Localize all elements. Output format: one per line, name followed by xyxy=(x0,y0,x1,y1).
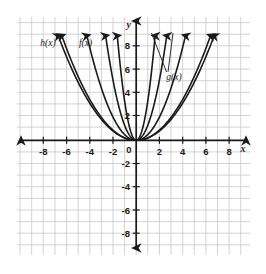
x-tick-label: -8 xyxy=(39,146,47,157)
y-axis-label: y xyxy=(126,19,132,30)
curve-label-g: g(x) xyxy=(166,72,181,83)
y-tick-label: -4 xyxy=(122,181,131,192)
x-tick-label: 6 xyxy=(203,146,208,157)
origin-label: 0 xyxy=(126,144,131,155)
coordinate-plane-svg: -8 -6 -4 -2 2 4 6 8 8 6 4 2 -2 -4 -6 -8 … xyxy=(0,0,266,274)
x-tick-label: -6 xyxy=(62,146,70,157)
y-tick-label: -6 xyxy=(122,205,130,216)
x-tick-label: 2 xyxy=(157,146,162,157)
parabola-graph-figure: -8 -6 -4 -2 2 4 6 8 8 6 4 2 -2 -4 -6 -8 … xyxy=(0,0,266,274)
x-tick-label: -4 xyxy=(86,146,95,157)
x-axis-label: x xyxy=(240,143,246,154)
x-tick-label: 8 xyxy=(226,146,231,157)
curve-label-f: f(x) xyxy=(79,38,92,49)
y-tick-label: 8 xyxy=(125,40,130,51)
y-tick-label: -8 xyxy=(122,228,130,239)
x-tick-label: 4 xyxy=(180,146,186,157)
y-tick-label: 4 xyxy=(125,87,131,98)
y-tick-label: 6 xyxy=(125,64,130,75)
curve-label-h: h(x) xyxy=(40,38,55,49)
y-tick-label: -2 xyxy=(122,158,130,169)
x-tick-label: -2 xyxy=(109,146,117,157)
plot-background xyxy=(17,17,250,255)
